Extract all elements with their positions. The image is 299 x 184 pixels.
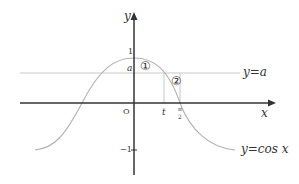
tick-label-two: 2: [178, 114, 182, 120]
origin-label: O: [123, 108, 130, 116]
x-axis-arrow-icon: [268, 100, 276, 107]
tick-label-one: 1: [128, 48, 133, 56]
line-y-equals-a-label: y=a: [243, 66, 267, 78]
tick-label-a: a: [127, 64, 132, 73]
cosine-curve-label: y=cos x: [241, 143, 289, 155]
cosine-curve: [35, 58, 235, 150]
region-1-label: ①: [140, 60, 151, 72]
tick-label-pi: π: [178, 106, 182, 112]
tick-label-t: t: [162, 108, 166, 117]
tick-label-minus-one: −1: [120, 146, 132, 154]
x-axis-label: x: [261, 107, 268, 119]
region-2-label: ②: [171, 75, 182, 87]
y-axis-label: y: [124, 10, 131, 22]
graph-canvas: [0, 0, 299, 184]
y-axis-arrow-icon: [131, 12, 138, 20]
